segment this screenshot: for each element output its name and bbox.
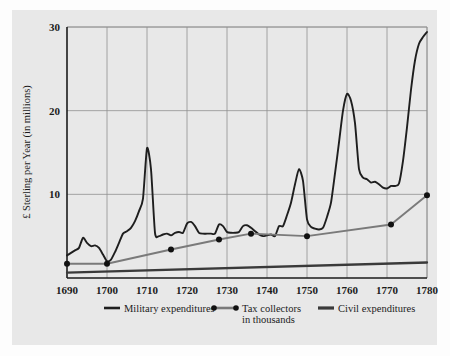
legend-label-1-line2: in thousands <box>242 314 295 325</box>
legend-item-1[interactable]: Tax collectorsin thousands <box>211 303 301 325</box>
x-tick-label: 1770 <box>376 284 399 296</box>
legend-item-0[interactable]: Military expenditures <box>104 303 215 314</box>
x-tick-label: 1730 <box>216 284 239 296</box>
legend-label-1: Tax collectors <box>242 303 301 314</box>
data-point-marker <box>388 221 394 227</box>
data-point-marker <box>424 192 430 198</box>
legend-swatch-dot-left <box>211 305 217 311</box>
expenditures-line-chart: 102030 169017001710172017301740175017601… <box>0 0 450 356</box>
x-tick-label: 1750 <box>296 284 319 296</box>
x-tick-label: 1720 <box>176 284 199 296</box>
legend-item-2[interactable]: Civil expenditures <box>318 303 415 314</box>
x-tick-label: 1740 <box>256 284 279 296</box>
data-point-marker <box>64 261 70 267</box>
data-series-layer <box>64 32 430 273</box>
y-tick-label: 30 <box>49 21 61 33</box>
data-point-marker <box>104 261 110 267</box>
data-point-marker <box>216 237 222 243</box>
series-line-1 <box>67 195 427 264</box>
series-line-2 <box>67 263 427 273</box>
x-tick-label: 1700 <box>96 284 119 296</box>
chart-page: 102030 169017001710172017301740175017601… <box>0 0 450 356</box>
chart-legend: Military expendituresTax collectorsin th… <box>104 303 415 325</box>
y-tick-label: 20 <box>49 105 61 117</box>
x-axis-tick-labels: 1690170017101720173017401750176017701780 <box>56 284 439 296</box>
y-tick-label: 10 <box>49 188 61 200</box>
data-point-marker <box>304 233 310 239</box>
x-tick-label: 1780 <box>416 284 439 296</box>
x-tick-label: 1760 <box>336 284 359 296</box>
legend-label-2: Civil expenditures <box>338 303 415 314</box>
x-tick-label: 1690 <box>56 284 79 296</box>
y-axis-title: £ Sterling per Year (in millions) <box>21 85 33 219</box>
legend-label-0: Military expenditures <box>124 303 215 314</box>
legend-swatch-dot-right <box>233 305 239 311</box>
data-point-marker <box>248 231 254 237</box>
x-tick-label: 1710 <box>136 284 159 296</box>
data-point-marker <box>168 247 174 253</box>
y-axis-tick-labels: 102030 <box>49 21 61 200</box>
